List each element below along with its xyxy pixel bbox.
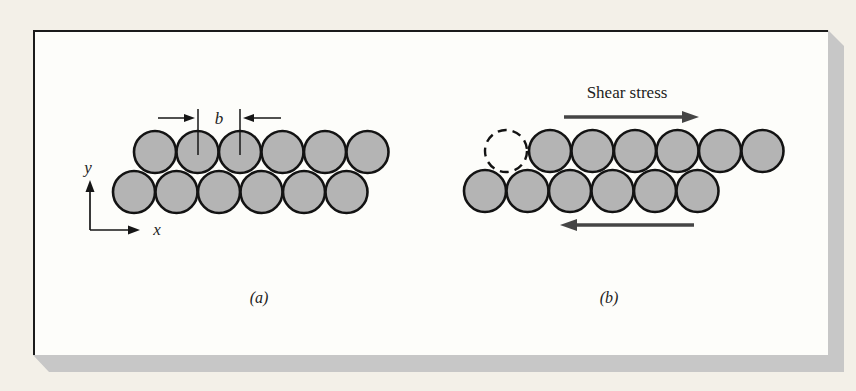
atom bbox=[592, 170, 634, 212]
shear-stress-arrow-right-icon bbox=[564, 111, 699, 123]
figure-panel: b y x (a) Shear stress bbox=[33, 30, 828, 355]
atom bbox=[549, 170, 591, 212]
panel-b-caption: (b) bbox=[600, 289, 619, 307]
atom bbox=[262, 131, 304, 173]
y-axis-arrowhead-icon bbox=[86, 180, 95, 192]
dimension-arrowhead-right-icon bbox=[184, 114, 195, 122]
y-axis-label: y bbox=[82, 158, 92, 177]
page-background: b y x (a) Shear stress bbox=[0, 0, 856, 391]
panel-b-top-row bbox=[529, 130, 784, 172]
atom bbox=[634, 170, 676, 212]
x-axis-arrowhead-icon bbox=[128, 226, 140, 235]
atom-original-position-dashed bbox=[485, 130, 527, 172]
atom bbox=[113, 171, 155, 213]
atom bbox=[134, 131, 176, 173]
atom bbox=[699, 130, 741, 172]
atom bbox=[657, 130, 699, 172]
atom bbox=[677, 170, 719, 212]
atom bbox=[614, 130, 656, 172]
dimension-arrowhead-left-icon bbox=[243, 114, 254, 122]
diagram-svg: b y x (a) Shear stress bbox=[35, 32, 828, 355]
atom bbox=[742, 130, 784, 172]
panel-b: Shear stress bbox=[464, 83, 784, 307]
shear-arrow-left-head bbox=[560, 219, 577, 231]
atom bbox=[507, 170, 549, 212]
panel-a: b y x (a) bbox=[82, 109, 388, 307]
atom bbox=[283, 171, 325, 213]
atom bbox=[198, 171, 240, 213]
atom bbox=[529, 130, 571, 172]
panel-a-top-row bbox=[134, 131, 389, 173]
atom bbox=[572, 130, 614, 172]
atom bbox=[464, 170, 506, 212]
panel-a-caption: (a) bbox=[250, 289, 269, 307]
atom bbox=[241, 171, 283, 213]
atom bbox=[326, 171, 368, 213]
panel-a-bottom-row bbox=[113, 171, 368, 213]
shear-arrow-right-head bbox=[682, 111, 699, 123]
burgers-vector-label: b bbox=[215, 109, 224, 128]
atom bbox=[347, 131, 389, 173]
shear-stress-label: Shear stress bbox=[587, 83, 668, 102]
shear-stress-arrow-left-icon bbox=[560, 219, 694, 231]
atom bbox=[156, 171, 198, 213]
x-axis-label: x bbox=[152, 220, 161, 239]
panel-b-bottom-row bbox=[464, 170, 719, 212]
atom bbox=[304, 131, 346, 173]
